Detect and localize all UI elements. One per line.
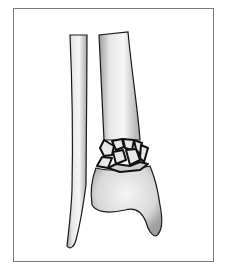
- fracture-fragments: [97, 139, 148, 172]
- ankle-fracture-illustration: [0, 0, 228, 276]
- tibia-shaft: [99, 32, 140, 140]
- talus-bone: [91, 166, 161, 236]
- fibula-bone: [67, 35, 87, 248]
